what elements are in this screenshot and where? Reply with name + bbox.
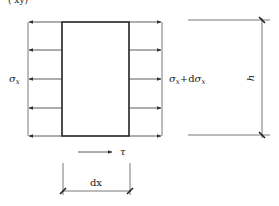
right-stress-arrows bbox=[129, 22, 161, 136]
element-rectangle bbox=[62, 22, 129, 136]
shear-label: τ bbox=[120, 146, 126, 157]
height-label: h bbox=[245, 75, 256, 81]
top-text-fragment: ( xy) bbox=[8, 0, 28, 5]
right-stress-label: σx+dσx bbox=[169, 73, 205, 86]
left-stress-label: σx bbox=[9, 73, 20, 86]
width-label: dx bbox=[90, 177, 102, 188]
stress-element-diagram: ( xy) σx σx+dσx h τ bbox=[0, 0, 279, 206]
left-stress-arrows bbox=[29, 22, 62, 136]
